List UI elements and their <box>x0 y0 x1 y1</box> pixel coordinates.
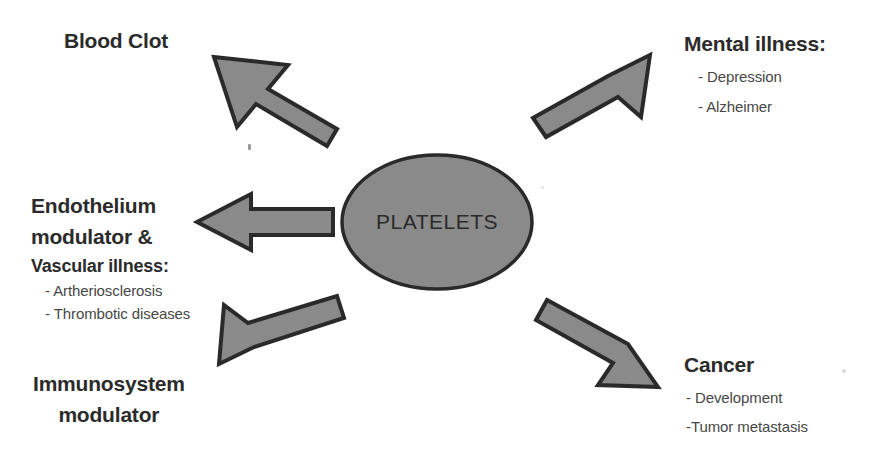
immunosystem-heading-line1: Immunosystem <box>33 373 185 394</box>
endothelium-heading-line2: modulator & <box>31 226 190 247</box>
scan-speckle-icon <box>248 144 251 150</box>
arrow-up-right <box>533 55 650 137</box>
cancer-item-1: - Development <box>684 390 808 405</box>
endothelium-heading-line1: Endothelium <box>31 195 190 216</box>
blood-clot-heading: Blood Clot <box>64 30 168 51</box>
branch-label-mental-illness: Mental illness: - Depression - Alzheimer <box>684 33 826 114</box>
cancer-item-2: -Tumor metastasis <box>684 419 808 434</box>
platelets-label: PLATELETS <box>376 210 498 233</box>
scan-speckle-icon <box>541 186 544 189</box>
mental-illness-heading: Mental illness: <box>684 33 826 54</box>
endothelium-item-2: - Thrombotic diseases <box>31 306 190 321</box>
arrow-up-left <box>214 57 337 146</box>
arrow-left <box>197 194 333 250</box>
scan-speckle-icon <box>842 369 846 373</box>
mental-illness-item-2: - Alzheimer <box>684 99 826 114</box>
branch-label-immunosystem: Immunosystem modulator <box>33 373 185 425</box>
immunosystem-heading-line2: modulator <box>33 404 185 425</box>
diagram-canvas: PLATELETS Blood Clot Endothelium modulat… <box>0 0 885 461</box>
arrow-down-right <box>536 300 658 387</box>
endothelium-heading-line3: Vascular illness: <box>31 257 190 275</box>
endothelium-item-1: - Artheriosclerosis <box>31 283 190 298</box>
cancer-heading: Cancer <box>684 354 808 375</box>
branch-label-cancer: Cancer - Development -Tumor metastasis <box>684 354 808 434</box>
branch-label-endothelium: Endothelium modulator & Vascular illness… <box>31 195 190 321</box>
branch-label-blood-clot: Blood Clot <box>64 30 168 51</box>
mental-illness-item-1: - Depression <box>684 69 826 84</box>
arrow-down-left <box>219 296 344 364</box>
